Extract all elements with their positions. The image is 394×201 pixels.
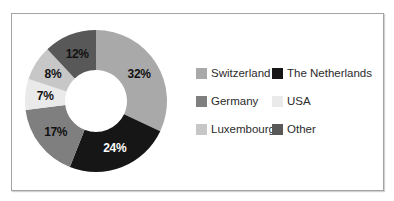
chart-legend: SwitzerlandThe NetherlandsGermanyUSALuxe… bbox=[196, 67, 372, 135]
legend-swatch-germany bbox=[196, 96, 207, 107]
legend-label-luxembourg: Luxembourg bbox=[211, 123, 275, 135]
legend-swatch-usa bbox=[272, 96, 283, 107]
legend-swatch-other bbox=[272, 124, 283, 135]
pie-segment-value-label-luxembourg: 8% bbox=[45, 67, 62, 81]
donut-chart: 32%24%17%7%8%12% bbox=[23, 28, 169, 174]
legend-label-other: Other bbox=[287, 123, 316, 135]
donut-chart-svg: 32%24%17%7%8%12% bbox=[23, 28, 169, 174]
pie-segment-value-label-other: 12% bbox=[66, 47, 90, 61]
pie-segment-value-label-the-netherlands: 24% bbox=[103, 141, 127, 155]
pie-segment-value-label-switzerland: 32% bbox=[128, 67, 152, 81]
legend-swatch-switzerland bbox=[196, 68, 207, 79]
legend-label-germany: Germany bbox=[211, 95, 258, 107]
legend-swatch-the-netherlands bbox=[272, 68, 283, 79]
pie-segment-value-label-usa: 7% bbox=[37, 89, 54, 103]
legend-item-the-netherlands: The Netherlands bbox=[272, 67, 372, 79]
legend-item-other: Other bbox=[272, 123, 372, 135]
legend-label-usa: USA bbox=[287, 95, 311, 107]
legend-swatch-luxembourg bbox=[196, 124, 207, 135]
legend-item-germany: Germany bbox=[196, 95, 272, 107]
legend-item-luxembourg: Luxembourg bbox=[196, 123, 272, 135]
legend-item-switzerland: Switzerland bbox=[196, 67, 272, 79]
legend-label-the-netherlands: The Netherlands bbox=[287, 67, 372, 79]
legend-label-switzerland: Switzerland bbox=[211, 67, 270, 79]
legend-item-usa: USA bbox=[272, 95, 372, 107]
chart-figure: 32%24%17%7%8%12% SwitzerlandThe Netherla… bbox=[0, 0, 394, 201]
pie-segment-value-label-germany: 17% bbox=[44, 125, 68, 139]
